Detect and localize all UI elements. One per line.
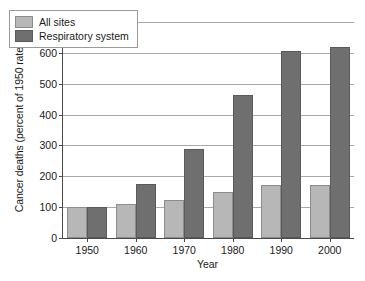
bar-group xyxy=(213,22,253,238)
bar-1980-all-sites xyxy=(213,192,233,238)
bar-1950-respiratory-system xyxy=(87,207,107,238)
legend-swatch-all-sites xyxy=(15,16,33,28)
x-tick-label-2000: 2000 xyxy=(300,244,360,256)
bar-1990-all-sites xyxy=(261,185,281,238)
bar-1960-respiratory-system xyxy=(136,184,156,238)
plot-area: 0100200300400500600700195019601970198019… xyxy=(62,22,354,239)
y-tick-label: 100 xyxy=(39,201,63,213)
x-tick-mark xyxy=(281,238,282,242)
bar-1960-all-sites xyxy=(116,204,136,238)
y-tick-label: 200 xyxy=(39,170,63,182)
legend-swatch-respiratory-system xyxy=(15,30,33,42)
bar-2000-respiratory-system xyxy=(330,47,350,238)
bar-group xyxy=(116,22,156,238)
bar-1950-all-sites xyxy=(67,207,87,238)
x-tick-mark xyxy=(184,238,185,242)
y-tick-label: 600 xyxy=(39,47,63,59)
bar-group xyxy=(310,22,350,238)
legend-label-all-sites: All sites xyxy=(39,16,75,28)
x-axis-label: Year xyxy=(60,258,355,270)
bar-1970-all-sites xyxy=(164,200,184,238)
y-tick-label: 300 xyxy=(39,139,63,151)
x-tick-mark xyxy=(136,238,137,242)
bar-chart: Cancer deaths (percent of 1950 rate) Yea… xyxy=(0,0,365,281)
x-tick-mark xyxy=(87,238,88,242)
legend-label-respiratory-system: Respiratory system xyxy=(39,30,129,42)
bar-1990-respiratory-system xyxy=(281,51,301,238)
legend-item-all-sites: All sites xyxy=(15,15,129,29)
bar-1980-respiratory-system xyxy=(233,95,253,238)
chart-legend: All sites Respiratory system xyxy=(9,10,138,48)
x-tick-mark xyxy=(330,238,331,242)
bar-group xyxy=(164,22,204,238)
bar-group xyxy=(67,22,107,238)
bar-2000-all-sites xyxy=(310,185,330,238)
y-tick-label: 500 xyxy=(39,78,63,90)
x-tick-mark xyxy=(233,238,234,242)
bar-1970-respiratory-system xyxy=(184,149,204,238)
bar-group xyxy=(261,22,301,238)
y-tick-label: 400 xyxy=(39,109,63,121)
legend-item-respiratory-system: Respiratory system xyxy=(15,29,129,43)
y-tick-label: 0 xyxy=(51,232,63,244)
